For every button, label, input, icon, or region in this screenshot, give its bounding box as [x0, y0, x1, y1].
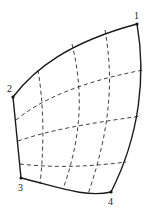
edge-right-1-4	[111, 24, 141, 192]
mesh-line-h3	[20, 162, 126, 166]
corner-label-2: 2	[7, 83, 12, 94]
corner-label-1: 1	[134, 10, 139, 21]
mesh-lines-vertical	[38, 30, 109, 194]
edge-bottom-3-4	[21, 178, 111, 194]
mesh-line-v3	[88, 30, 109, 194]
mesh-lines-horizontal	[16, 70, 143, 166]
mesh-line-h2	[18, 116, 141, 141]
edge-top-2-1	[13, 24, 137, 97]
corner-label-3: 3	[18, 182, 23, 193]
corner-labels: 1 2 3 4	[7, 10, 139, 207]
edge-left-2-3	[13, 97, 21, 178]
corner-node-2	[11, 95, 14, 98]
corner-node-4	[109, 190, 112, 193]
corner-nodes	[11, 22, 138, 193]
mesh-line-v1	[38, 70, 43, 184]
corner-label-4: 4	[108, 196, 113, 207]
corner-node-1	[135, 22, 138, 25]
corner-node-3	[19, 176, 22, 179]
boundary-edges	[13, 24, 141, 194]
mesh-line-v2	[63, 44, 79, 189]
mesh-diagram: 1 2 3 4	[0, 0, 155, 213]
